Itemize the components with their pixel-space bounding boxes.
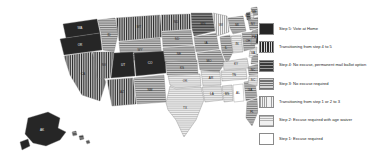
legend-swatch-step1 xyxy=(259,133,274,145)
map-svg: WA OR CA ID NV MT WY UT CO AZ NM ND SD N… xyxy=(0,0,258,165)
legend-swatch-step2 xyxy=(259,115,274,127)
legend-label-step3: Step 3: No excuse required xyxy=(279,82,329,87)
legend-label-step2: Step 2: Excuse required with age waiver xyxy=(279,118,352,123)
svg-text:TN: TN xyxy=(232,73,236,77)
legend-swatch-step3 xyxy=(259,78,274,90)
svg-text:MN: MN xyxy=(201,22,206,26)
legend-row[interactable]: Step 1: Excuse required xyxy=(259,130,389,148)
legend-label-step1: Step 1: Excuse required xyxy=(279,137,323,142)
svg-text:MO: MO xyxy=(207,59,213,63)
svg-text:VT: VT xyxy=(245,14,249,18)
svg-text:TX: TX xyxy=(183,106,187,110)
svg-text:MS: MS xyxy=(225,92,230,96)
svg-text:OR: OR xyxy=(78,43,83,47)
legend-label-step5: Step 5: Vote at Home xyxy=(279,27,318,32)
legend-label-transition-1-2-3: Transitioning from step 1 or 2 to 3 xyxy=(279,100,340,105)
svg-text:NE: NE xyxy=(177,52,181,56)
svg-text:KY: KY xyxy=(234,62,238,66)
svg-text:FL: FL xyxy=(250,110,254,114)
svg-text:MI: MI xyxy=(235,23,239,27)
legend-row[interactable]: Transitioning from step 4 to 5 xyxy=(259,38,389,56)
legend-swatch-transition-1-2-3 xyxy=(259,96,274,108)
svg-text:IL: IL xyxy=(225,46,228,50)
svg-text:NM: NM xyxy=(148,88,153,92)
legend-row[interactable]: Transitioning from step 1 or 2 to 3 xyxy=(259,93,389,111)
svg-text:AL: AL xyxy=(236,91,240,95)
svg-text:NC: NC xyxy=(251,68,256,72)
svg-text:KS: KS xyxy=(180,66,184,70)
legend-swatch-step5 xyxy=(259,23,274,35)
legend-row[interactable]: Step 4: No excuse, permanent mail ballot… xyxy=(259,57,389,75)
svg-text:UT: UT xyxy=(121,63,125,67)
state-HI-2 xyxy=(79,135,84,140)
svg-text:ND: ND xyxy=(174,20,179,24)
legend-row[interactable]: Step 2: Excuse required with age waiver xyxy=(259,111,389,129)
svg-text:OH: OH xyxy=(246,39,251,43)
svg-text:ME: ME xyxy=(252,10,257,14)
legend-row[interactable]: Step 3: No excuse required xyxy=(259,75,389,93)
svg-text:IN: IN xyxy=(235,42,238,46)
svg-text:WI: WI xyxy=(219,23,223,27)
state-AK-tail xyxy=(20,139,30,150)
svg-text:MT: MT xyxy=(137,25,142,29)
svg-text:CO: CO xyxy=(148,61,153,65)
svg-text:AR: AR xyxy=(209,76,214,80)
svg-text:SD: SD xyxy=(175,37,180,41)
state-HI-3 xyxy=(86,140,90,144)
state-TX xyxy=(166,86,204,137)
legend-swatch-step4 xyxy=(259,60,274,72)
legend-label-transition-4-5: Transitioning from step 4 to 5 xyxy=(279,45,332,50)
svg-text:AZ: AZ xyxy=(120,90,124,94)
svg-text:NY: NY xyxy=(251,22,255,26)
svg-text:SC: SC xyxy=(251,78,256,82)
legend-label-step4: Step 4: No excuse, permanent mail ballot… xyxy=(279,63,366,68)
legend-row[interactable]: Step 5: Vote at Home xyxy=(259,20,389,38)
svg-text:WY: WY xyxy=(138,48,143,52)
map-legend: Step 5: Vote at Home Transitioning from … xyxy=(259,20,389,148)
legend-swatch-transition-4-5 xyxy=(259,41,274,53)
state-AK xyxy=(25,112,66,146)
us-choropleth-map: WA OR CA ID NV MT WY UT CO AZ NM ND SD N… xyxy=(0,0,258,165)
state-HI-1 xyxy=(72,131,77,136)
